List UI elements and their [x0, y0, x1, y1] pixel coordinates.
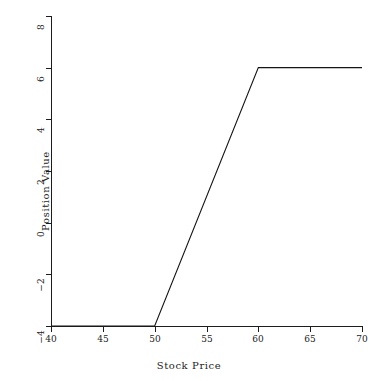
x-axis-title: Stock Price	[0, 360, 378, 371]
chart-plot-svg	[0, 0, 378, 381]
payoff-line	[51, 68, 362, 326]
chart-figure: 86420−2−4 40455055606570 Position Value …	[0, 0, 378, 381]
y-axis-title: Position Value	[40, 151, 51, 231]
